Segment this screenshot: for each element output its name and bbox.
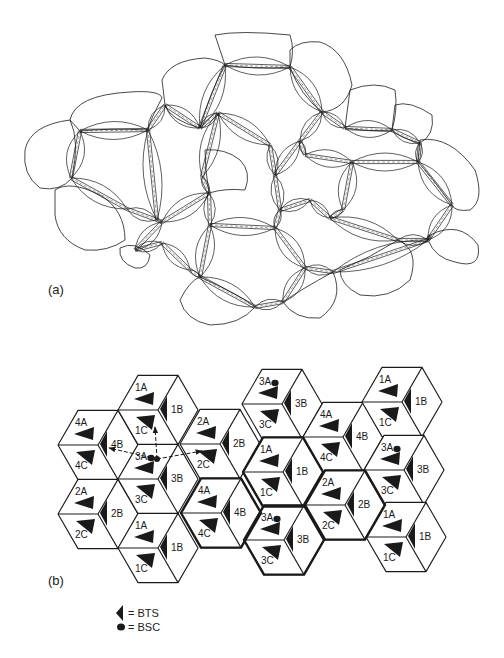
sector-label-c: 2C [75,529,88,540]
sector-label-c: 1C [383,552,396,563]
bsc-dot-icon [115,622,125,632]
sector-label-b: 3B [297,534,310,545]
sector-label-b: 1B [171,404,184,415]
bsc-dot-icon [271,380,278,386]
sector-label-a: 1A [383,509,396,520]
panel-b-label: (b) [48,573,64,588]
sector-label-a: 2A [322,477,335,488]
sector-label-c: 3C [261,555,274,566]
sector-label-b: 2B [358,499,371,510]
sector-label-b: 4B [234,507,247,518]
sector-label-a: 4A [198,485,211,496]
sector-label-c: 1C [379,417,392,428]
sector-label-a: 3A [135,451,148,462]
sector-label-c: 3C [135,494,148,505]
sector-label-c: 4C [198,528,211,539]
sector-label-c: 3C [381,485,394,496]
legend-item-bsc: = BSC [115,621,160,633]
sector-label-c: 2C [197,459,210,470]
legend-label-bsc: = BSC [128,621,160,633]
sector-label-b: 1B [296,466,309,477]
sector-label-a: 1A [379,374,392,385]
sector-label-c: 1C [135,563,148,574]
sector-label-a: 3A [261,512,274,523]
sector-label-b: 3B [417,464,430,475]
sector-label-b: 3B [295,398,308,409]
panel-b-hexagon-lattice: 4A4B4C2A2B2C1A1B1C3A3B3C1A1B1C2A2B2C4A4B… [0,0,504,658]
sector-label-c: 3C [259,419,272,430]
sector-label-a: 1A [135,520,148,531]
legend-item-bts: = BTS [115,605,159,621]
sector-label-b: 1B [419,531,432,542]
sector-label-b: 2B [233,438,246,449]
sector-label-b: 3B [171,473,184,484]
sector-label-c: 4C [75,460,88,471]
sector-label-a: 4A [75,417,88,428]
legend-label-bts: = BTS [128,607,159,619]
sector-label-b: 2B [111,508,124,519]
sector-label-a: 1A [135,382,148,393]
sector-label-a: 1A [260,444,273,455]
sector-label-c: 2C [322,520,335,531]
sector-label-a: 3A [259,376,272,387]
figure: (a) 4A4B4C2A2B2C1A1B1C3A3B3C1A1B1C2A2B2C… [0,0,504,658]
sector-label-b: 1B [415,396,428,407]
sector-label-a: 2A [75,486,88,497]
bsc-dot-icon [393,446,400,452]
sector-label-c: 1C [260,487,273,498]
sector-label-c: 1C [135,425,148,436]
sector-label-b: 4B [356,431,369,442]
sector-label-c: 4C [320,452,333,463]
hex-lattice: 4A4B4C2A2B2C1A1B1C3A3B3C1A1B1C2A2B2C4A4B… [58,367,446,582]
bts-triangle-icon [115,605,125,621]
sector-label-b: 4B [111,439,124,450]
bsc-dot-icon [273,516,280,522]
sector-label-a: 3A [381,442,394,453]
sector-label-a: 2A [197,416,210,427]
sector-label-a: 4A [320,409,333,420]
sector-label-b: 1B [171,542,184,553]
